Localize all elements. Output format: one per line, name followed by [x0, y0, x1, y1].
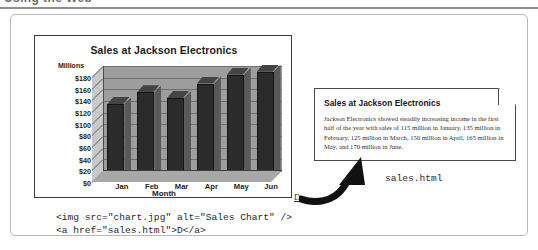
chart-x-axis-label: Month: [35, 189, 293, 198]
chart-bar-side: [244, 68, 251, 171]
chart-y-tick: $20: [79, 167, 91, 176]
chart-y-tick: $120: [75, 109, 91, 118]
chart-bar: [197, 84, 214, 172]
chart-y-tick: $100: [75, 120, 91, 129]
chart-y-tick: $80: [79, 132, 91, 141]
chart-bar: [227, 75, 244, 171]
note-body-text: Jackson Electronics showed steadily incr…: [324, 114, 507, 152]
note-title: Sales at Jackson Electronics: [324, 98, 440, 108]
chart-bar-side: [154, 85, 161, 171]
chart-y-tick: $40: [79, 155, 91, 164]
chart-plot-area: [92, 66, 282, 184]
chart-y-tick: $140: [75, 97, 91, 106]
chart-bar: [167, 98, 184, 171]
chart-bar: [257, 72, 274, 171]
chart-bar-front: [257, 72, 274, 171]
chart-y-tick: $60: [79, 144, 91, 153]
code-line-anchor: <a href="sales.html">D</a>: [56, 225, 206, 236]
chart-y-tick: $180: [75, 74, 91, 83]
chart-title: Sales at Jackson Electronics: [35, 44, 293, 56]
chart-bar-front: [137, 92, 154, 171]
chart-bar-front: [197, 84, 214, 172]
code-line-img: <img src="chart.jpg" alt="Sales Chart" /…: [56, 212, 292, 223]
curved-arrow-icon: [299, 155, 381, 205]
chart-figure: Sales at Jackson Electronics Millions $1…: [34, 35, 292, 198]
chart-gridline: [103, 66, 282, 67]
target-filename-caption: sales.html: [385, 173, 443, 184]
figure-container: Sales at Jackson Electronics Millions $1…: [10, 14, 528, 236]
plot-axis-base: [103, 170, 282, 171]
chart-bar: [107, 104, 124, 171]
chart-bar: [137, 92, 154, 171]
chart-y-tick: $0: [83, 179, 91, 188]
header-divider: [0, 7, 538, 9]
chart-bar-side: [214, 77, 221, 172]
plot-axis-left: [103, 66, 104, 171]
chart-bar-side: [124, 97, 131, 171]
chart-bar-front: [167, 98, 184, 171]
chart-gridline: [103, 78, 282, 79]
chart-bar-front: [227, 75, 244, 171]
code-snippet: <img src="chart.jpg" alt="Sales Chart" /…: [56, 211, 292, 237]
chart-gridline: [103, 89, 282, 90]
chart-y-tick: $160: [75, 85, 91, 94]
chart-y-axis-label: Millions: [58, 62, 84, 69]
chart-y-axis: $180$160$140$120$100$80$60$40$20$0: [49, 72, 91, 176]
chart-bar-side: [274, 65, 281, 171]
page-top-heading: Using the Web: [4, 0, 92, 5]
chart-bar-front: [107, 104, 124, 171]
target-page-note: Sales at Jackson Electronics Jackson Ele…: [314, 88, 516, 161]
chart-bar-side: [184, 91, 191, 171]
